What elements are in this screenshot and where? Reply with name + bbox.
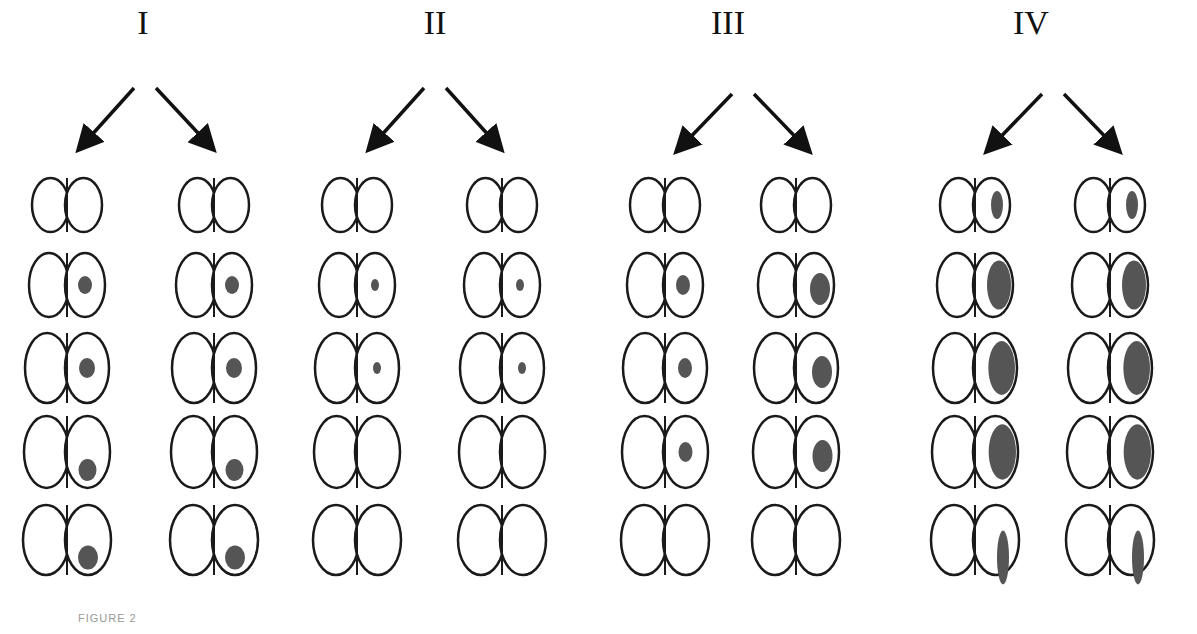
lesion-region xyxy=(518,362,526,374)
brain-section xyxy=(754,333,838,403)
lesion-region xyxy=(997,531,1009,585)
lesion-region xyxy=(988,341,1015,395)
brain-section xyxy=(1075,178,1145,232)
brain-section xyxy=(313,505,401,575)
lesion-region xyxy=(371,279,379,291)
lesion-region xyxy=(987,260,1011,309)
lesion-region xyxy=(679,442,693,462)
brain-section xyxy=(1067,416,1153,488)
brain-section xyxy=(1068,333,1152,403)
brain-section xyxy=(459,416,545,488)
brain-section xyxy=(630,178,700,232)
brain-section xyxy=(627,253,703,317)
lesion-region xyxy=(79,358,95,378)
lesion-region xyxy=(373,362,381,374)
brain-section xyxy=(940,178,1010,232)
brain-section xyxy=(319,253,395,317)
brain-section xyxy=(752,505,840,575)
brain-section xyxy=(937,253,1013,317)
lesion-region xyxy=(991,191,1003,219)
lesion-region xyxy=(810,273,830,305)
lesion-region xyxy=(678,358,692,378)
brain-section xyxy=(761,178,831,232)
brain-section xyxy=(24,416,110,488)
brain-section xyxy=(933,333,1017,403)
brain-section xyxy=(622,416,708,488)
brain-section xyxy=(176,253,252,317)
lesion-region xyxy=(1132,531,1144,585)
brain-section xyxy=(464,253,540,317)
brain-section xyxy=(29,253,105,317)
brain-section xyxy=(931,505,1019,584)
brain-section xyxy=(25,333,109,403)
brain-section xyxy=(315,333,399,403)
brain-section-diagram xyxy=(0,0,1197,634)
lesion-region xyxy=(225,546,245,570)
brain-section xyxy=(23,505,111,575)
brain-section xyxy=(758,253,834,317)
lesion-region xyxy=(78,276,92,294)
lesion-region xyxy=(813,440,833,472)
brain-section xyxy=(1072,253,1148,317)
brain-section xyxy=(458,505,546,575)
lesion-region xyxy=(79,459,97,481)
brain-section xyxy=(467,178,537,232)
brain-section xyxy=(753,416,839,488)
brain-section xyxy=(32,178,102,232)
lesion-region xyxy=(1124,424,1151,479)
lesion-region xyxy=(989,424,1016,479)
lesion-region xyxy=(676,275,690,295)
brain-section xyxy=(621,505,709,575)
brain-section xyxy=(932,416,1018,488)
brain-section xyxy=(171,416,257,488)
lesion-region xyxy=(516,279,524,291)
brain-section xyxy=(314,416,400,488)
brain-section xyxy=(179,178,249,232)
brain-section xyxy=(623,333,707,403)
brain-section xyxy=(322,178,392,232)
brain-section xyxy=(1066,505,1154,584)
lesion-region xyxy=(1123,341,1150,395)
brain-section xyxy=(172,333,256,403)
lesion-region xyxy=(226,459,244,481)
lesion-region xyxy=(226,358,242,378)
lesion-region xyxy=(225,276,239,294)
lesion-region xyxy=(1122,260,1146,309)
brain-section xyxy=(460,333,544,403)
lesion-region xyxy=(78,546,98,570)
brain-section xyxy=(170,505,258,575)
figure-caption: FIGURE 2 xyxy=(78,612,137,624)
lesion-region xyxy=(812,356,832,388)
lesion-region xyxy=(1126,191,1138,219)
arrow-icons xyxy=(80,88,1118,150)
